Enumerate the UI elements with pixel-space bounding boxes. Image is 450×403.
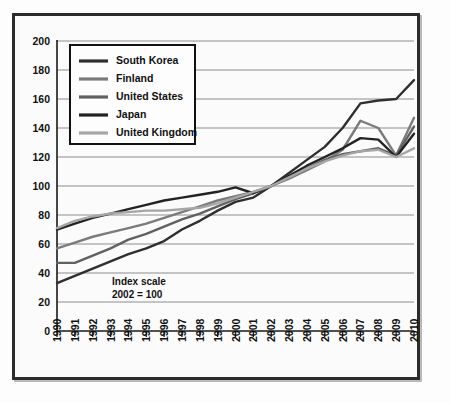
x-axis-tick-label: 1998 (194, 318, 206, 342)
x-axis-tick-label: 1990 (51, 318, 63, 342)
x-axis-tick-label: 1997 (176, 318, 188, 342)
y-axis-tick-label: 20 (38, 296, 50, 308)
y-axis-tick-label: 40 (38, 267, 50, 279)
index-scale-note-line1: Index scale (112, 276, 166, 287)
legend-label-south-korea: South Korea (116, 54, 179, 66)
x-axis-tick-label: 2007 (354, 318, 366, 342)
x-axis-tick-label: 1992 (87, 318, 99, 342)
x-axis-tick-label: 1995 (140, 318, 152, 342)
x-axis-tick-label: 1996 (158, 318, 170, 342)
legend-label-united-kingdom: United Kingdom (116, 126, 197, 138)
y-axis-tick-label: 0 (44, 325, 50, 337)
x-axis-tick-label: 2010 (408, 318, 420, 342)
y-axis-tick-label: 60 (38, 238, 50, 250)
x-axis-tick-label: 2002 (265, 318, 277, 342)
x-axis-tick-label: 2005 (319, 318, 331, 342)
y-axis-tick-label: 100 (32, 180, 50, 192)
y-axis-tick-label: 120 (32, 151, 50, 163)
index-scale-note-line2: 2002 = 100 (112, 289, 163, 300)
x-axis-tick-label: 1994 (122, 318, 134, 342)
y-axis-tick-label: 160 (32, 93, 50, 105)
x-axis-tick-label: 2009 (390, 318, 402, 342)
x-axis-tick-label: 2006 (337, 318, 349, 342)
y-axis-tick-label: 180 (32, 64, 50, 76)
x-axis-tick-label: 2003 (283, 318, 295, 342)
x-axis-tick-label: 2000 (230, 318, 242, 342)
legend-label-united-states: United States (116, 90, 183, 102)
x-axis-tick-label: 1991 (69, 318, 81, 342)
y-axis-tick-label: 140 (32, 122, 50, 134)
y-axis-tick-label: 200 (32, 35, 50, 47)
x-axis-tick-label: 2008 (372, 318, 384, 342)
x-axis-tick-label: 2001 (247, 318, 259, 342)
legend-label-japan: Japan (116, 108, 146, 120)
x-axis-tick-label: 2004 (301, 318, 313, 342)
y-axis-tick-label: 80 (38, 209, 50, 221)
legend-label-finland: Finland (116, 72, 153, 84)
chart-container: 0204060801001201401601802001990199119921… (0, 0, 450, 403)
x-axis-tick-label: 1993 (105, 318, 117, 342)
x-axis-tick-label: 1999 (212, 318, 224, 342)
series-line-united-states (57, 127, 414, 263)
line-chart: 0204060801001201401601802001990199119921… (0, 0, 450, 403)
